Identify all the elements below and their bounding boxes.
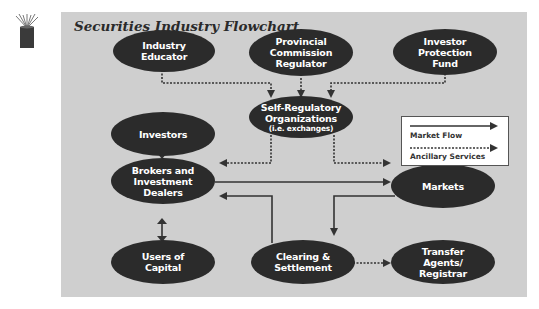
flowchart-panel: Securities Industry Flowchart bbox=[61, 12, 527, 297]
node-markets: Markets bbox=[391, 164, 495, 208]
node-self-regulatory-organizations: Self-Regulatory Organizations(i.e. excha… bbox=[249, 96, 353, 138]
node-investors: Investors bbox=[111, 112, 215, 156]
sro-sublabel: (i.e. exchanges) bbox=[261, 124, 341, 133]
node-provincial-regulator: Provincial Commission Regulator bbox=[249, 29, 353, 76]
legend-ancillary-services: Ancillary Services bbox=[410, 152, 485, 161]
legend: Market Flow Ancillary Services bbox=[401, 116, 509, 166]
basket-icon bbox=[14, 14, 40, 48]
node-brokers-investment-dealers: Brokers and Investment Dealers bbox=[111, 158, 215, 204]
node-investor-protection-fund: Investor Protection Fund bbox=[393, 29, 497, 75]
node-industry-educator: Industry Educator bbox=[113, 30, 215, 72]
node-clearing-settlement: Clearing & Settlement bbox=[251, 240, 355, 284]
sro-label: Self-Regulatory Organizations bbox=[261, 102, 341, 124]
node-users-of-capital: Users of Capital bbox=[111, 240, 215, 284]
legend-market-flow: Market Flow bbox=[410, 131, 462, 140]
node-transfer-agents-registrar: Transfer Agents/ Registrar bbox=[391, 240, 495, 284]
